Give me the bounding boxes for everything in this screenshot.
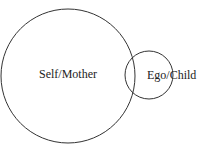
self-mother-label: Self/Mother: [39, 67, 97, 81]
ego-child-label: Ego/Child: [147, 68, 196, 82]
venn-diagram: Self/Mother Ego/Child: [0, 0, 199, 154]
